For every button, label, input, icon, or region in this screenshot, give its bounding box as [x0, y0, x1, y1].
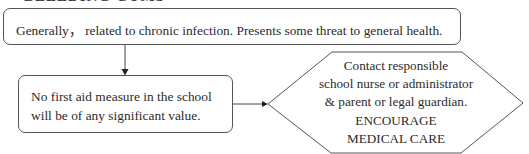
action-hexagon-text: Contact responsible school nurse or admi… [300, 57, 492, 148]
first-aid-line-1: No first aid measure in the school [31, 87, 212, 106]
first-aid-line-2: will be of any significant value. [31, 106, 212, 125]
condition-text: Generally， related to chronic infection.… [16, 19, 442, 39]
action-line-3: & parent or legal guardian. [300, 93, 492, 111]
first-aid-box: No first aid measure in the school will … [18, 75, 233, 133]
condition-box: Generally， related to chronic infection.… [3, 8, 461, 45]
action-line-2: school nurse or administrator [300, 75, 492, 93]
action-line-4: ENCOURAGE [300, 112, 492, 130]
action-line-5: MEDICAL CARE [300, 130, 492, 148]
action-line-1: Contact responsible [300, 57, 492, 75]
arrowhead-right-icon [262, 101, 268, 107]
